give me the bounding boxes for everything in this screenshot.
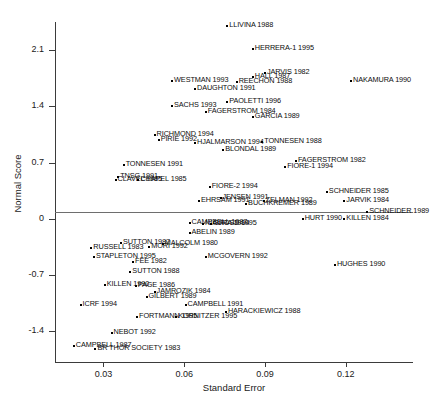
data-point-label: FEE 1982 — [135, 257, 167, 265]
data-point-label: LLIVINA 1988 — [229, 21, 273, 29]
plot-area: LLIVINA 1988HERRERA-1 1995JARVIS 1982HAL… — [0, 0, 432, 401]
data-point-label: HERRERA-1 1995 — [255, 44, 314, 52]
data-point-marker — [129, 271, 131, 273]
data-point-marker — [115, 179, 117, 181]
data-point-label: KILLEN 1984 — [346, 214, 388, 222]
data-point-label: EHRSAM 1991 — [201, 196, 249, 204]
data-point-label: FIORE-2 1994 — [212, 182, 258, 190]
data-point-marker — [222, 149, 224, 151]
data-point-label: BLONDAL 1989 — [225, 145, 276, 153]
data-point-label: SUTTON 1988 — [132, 267, 179, 275]
data-point-label: GROSS 1995 — [213, 219, 257, 227]
data-point-marker — [80, 304, 82, 306]
data-point-label: RUSSELL 1983 — [93, 243, 143, 251]
data-point-label: KORNITZER 1995 — [178, 312, 237, 320]
data-point-marker — [210, 223, 212, 225]
data-point-marker — [343, 200, 345, 202]
data-point-marker — [189, 232, 191, 234]
data-point-label: MCGOVERN 1992 — [208, 252, 268, 260]
data-point-label: DAUGHTON 1991 — [197, 84, 256, 92]
data-point-label: CHAPEL 1985 — [140, 175, 186, 183]
x-axis-title: Standard Error — [55, 382, 413, 393]
data-point-label: TONNESEN 1991 — [126, 160, 183, 168]
data-point-marker — [136, 316, 138, 318]
data-point-label: SCHNEIDER 1985 — [329, 187, 389, 195]
data-point-marker — [171, 105, 173, 107]
data-point-label: JARVIK 1984 — [346, 196, 389, 204]
data-point-marker — [198, 200, 200, 202]
data-point-marker — [350, 80, 352, 82]
data-point-marker — [94, 348, 96, 350]
data-point-marker — [252, 48, 254, 50]
data-point-marker — [135, 285, 137, 287]
data-point-marker — [284, 166, 286, 168]
data-point-label: NEBOT 1992 — [114, 328, 156, 336]
data-point-label: NAKAMURA 1990 — [353, 76, 411, 84]
data-point-label: PIRIE 1992 — [161, 135, 197, 143]
data-point-marker — [189, 222, 191, 224]
data-point-label: ICRF 1994 — [83, 300, 117, 308]
data-point-marker — [252, 116, 254, 118]
data-point-marker — [202, 223, 204, 225]
y-axis-title: Normal Score — [12, 144, 23, 224]
data-point-marker — [205, 111, 207, 113]
data-point-label: FIORE-1 1994 — [287, 162, 333, 170]
data-point-label: HURT 1990 — [305, 214, 342, 222]
data-point-marker — [171, 80, 173, 82]
data-point-marker — [326, 191, 328, 193]
data-point-label: BR THOR SOCIETY 1983 — [97, 344, 180, 352]
data-point-marker — [261, 141, 263, 143]
data-point-marker — [90, 247, 92, 249]
data-point-marker — [175, 316, 177, 318]
data-point-label: BUCHKREMER 1989 — [248, 199, 317, 207]
data-point-label: MORI 1992 — [151, 242, 187, 250]
data-point-marker — [73, 345, 75, 347]
data-point-marker — [132, 261, 134, 263]
data-point-marker — [158, 139, 160, 141]
data-point-label: HARACKIEWICZ 1988 — [228, 307, 301, 315]
data-point-marker — [343, 218, 345, 220]
data-point-marker — [334, 264, 336, 266]
data-point-marker — [226, 101, 228, 103]
data-point-label: PAOLETTI 1996 — [229, 97, 281, 105]
normal-score-vs-standard-error-scatter-plot: 2.11.40.70-0.7-1.4 0.030.060.090.12 LLIV… — [0, 0, 432, 401]
data-point-marker — [154, 134, 156, 136]
data-point-label: ABELIN 1989 — [192, 228, 235, 236]
data-point-marker — [104, 284, 106, 286]
data-point-marker — [194, 88, 196, 90]
data-point-marker — [123, 164, 125, 166]
data-point-marker — [226, 25, 228, 27]
data-point-marker — [302, 218, 304, 220]
data-point-marker — [137, 179, 139, 181]
data-point-marker — [245, 203, 247, 205]
data-point-label: HUGHES 1990 — [337, 260, 385, 268]
data-point-marker — [194, 142, 196, 144]
data-point-marker — [146, 296, 148, 298]
data-point-marker — [148, 246, 150, 248]
data-point-marker — [185, 304, 187, 306]
data-point-marker — [209, 186, 211, 188]
data-point-label: GARCIA 1989 — [255, 112, 300, 120]
data-point-marker — [205, 256, 207, 258]
data-point-marker — [93, 256, 95, 258]
data-point-marker — [111, 332, 113, 334]
